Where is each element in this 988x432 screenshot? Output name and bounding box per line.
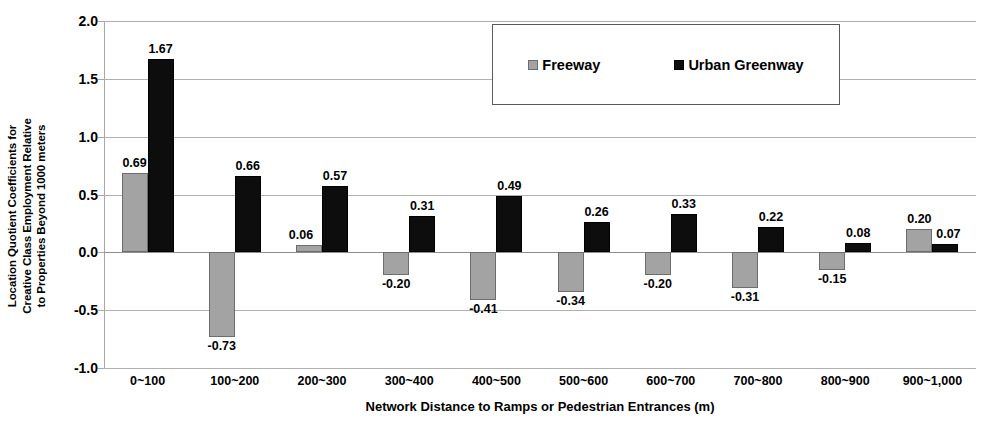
- bar-freeway[interactable]: [209, 252, 235, 336]
- x-tick-label: 0~100: [130, 374, 165, 388]
- bar-freeway[interactable]: [383, 252, 409, 275]
- bar-freeway[interactable]: [296, 245, 322, 252]
- legend-swatch-urban-greenway-icon: [674, 60, 684, 70]
- bar-value-label: -0.34: [548, 294, 594, 308]
- bar-urban-greenway[interactable]: [322, 186, 348, 252]
- y-tick-mark: [98, 137, 104, 138]
- bar-value-label: 0.08: [835, 226, 881, 240]
- x-tick-label: 600~700: [646, 374, 695, 388]
- legend-label: Freeway: [542, 57, 600, 73]
- bar-value-label: -0.20: [635, 277, 681, 291]
- legend-entry[interactable]: Freeway: [528, 57, 600, 73]
- bar-chart-figure: Location Quotient Coefficients for Creat…: [0, 0, 988, 432]
- legend-label: Urban Greenway: [688, 57, 803, 73]
- y-tick-mark: [98, 310, 104, 311]
- bar-freeway[interactable]: [819, 252, 845, 269]
- y-tick-label: -0.5: [52, 302, 98, 318]
- bar-urban-greenway[interactable]: [671, 214, 697, 252]
- x-tick-label: 800~900: [821, 374, 870, 388]
- gridline: [104, 368, 976, 369]
- y-tick-label: -1.0: [52, 360, 98, 376]
- bar-urban-greenway[interactable]: [235, 176, 261, 252]
- bar-urban-greenway[interactable]: [409, 216, 435, 252]
- y-tick-mark: [98, 79, 104, 80]
- bar-urban-greenway[interactable]: [845, 243, 871, 252]
- bar-value-label: 1.67: [138, 42, 184, 56]
- bar-freeway[interactable]: [645, 252, 671, 275]
- bar-urban-greenway[interactable]: [496, 196, 522, 253]
- bar-group: 0.060.57: [278, 21, 365, 368]
- y-tick-label: 1.5: [52, 71, 98, 87]
- bar-value-label: -0.15: [809, 272, 855, 286]
- chart-legend: FreewayUrban Greenway: [492, 24, 840, 105]
- y-tick-label: 1.0: [52, 129, 98, 145]
- bar-group: 0.691.67: [104, 21, 191, 368]
- bar-value-label: 0.31: [399, 199, 445, 213]
- legend-entries: FreewayUrban Greenway: [493, 25, 839, 104]
- x-axis-title: Network Distance to Ramps or Pedestrian …: [104, 399, 976, 414]
- y-axis-title-text: Location Quotient Coefficients for Creat…: [5, 118, 49, 313]
- bar-group: -0.730.66: [191, 21, 278, 368]
- y-tick-mark: [98, 368, 104, 369]
- x-tick-label: 900~1,000: [903, 374, 962, 388]
- bar-freeway[interactable]: [122, 173, 148, 253]
- bar-value-label: 0.26: [574, 205, 620, 219]
- bar-group: 0.200.07: [889, 21, 976, 368]
- bar-urban-greenway[interactable]: [758, 227, 784, 252]
- bar-value-label: 0.22: [748, 210, 794, 224]
- bar-value-label: 0.20: [896, 212, 942, 226]
- bar-freeway[interactable]: [558, 252, 584, 291]
- bar-value-label: 0.33: [661, 197, 707, 211]
- bar-urban-greenway[interactable]: [932, 244, 958, 252]
- bar-value-label: 0.66: [225, 159, 271, 173]
- x-tick-label: 300~400: [385, 374, 434, 388]
- y-tick-label: 0.0: [52, 244, 98, 260]
- bar-urban-greenway[interactable]: [148, 59, 174, 252]
- y-tick-mark: [98, 252, 104, 253]
- bar-value-label: 0.07: [925, 227, 971, 241]
- bar-value-label: -0.20: [373, 277, 419, 291]
- bar-urban-greenway[interactable]: [584, 222, 610, 252]
- bar-value-label: 0.49: [486, 179, 532, 193]
- y-tick-mark: [98, 195, 104, 196]
- x-tick-label: 400~500: [472, 374, 521, 388]
- legend-swatch-freeway-icon: [528, 60, 538, 70]
- bar-value-label: -0.73: [199, 339, 245, 353]
- bar-value-label: 0.06: [278, 228, 324, 242]
- bar-value-label: -0.31: [722, 290, 768, 304]
- legend-entry[interactable]: Urban Greenway: [674, 57, 803, 73]
- bar-value-label: -0.41: [460, 302, 506, 316]
- y-axis-tick-labels: 2.01.51.00.50.0-0.5-1.0: [46, 0, 98, 432]
- x-tick-label: 100~200: [210, 374, 259, 388]
- y-tick-label: 2.0: [52, 13, 98, 29]
- x-tick-label: 500~600: [559, 374, 608, 388]
- bar-freeway[interactable]: [470, 252, 496, 299]
- y-tick-mark: [98, 21, 104, 22]
- y-tick-label: 0.5: [52, 187, 98, 203]
- bar-value-label: 0.57: [312, 169, 358, 183]
- x-tick-label: 700~800: [733, 374, 782, 388]
- x-tick-label: 200~300: [297, 374, 346, 388]
- bar-freeway[interactable]: [732, 252, 758, 288]
- bar-group: -0.200.31: [366, 21, 453, 368]
